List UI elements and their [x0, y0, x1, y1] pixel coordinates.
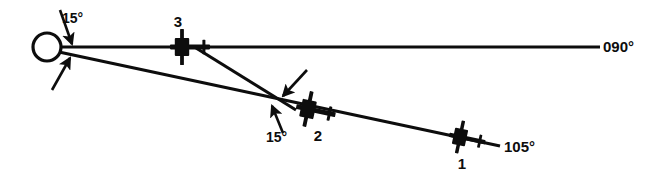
bearing-label-090: 090°: [603, 38, 634, 55]
aircraft-label-3: 3: [174, 13, 182, 30]
text-labels-group: 090° 105° 15° 15° 3 2 1: [62, 10, 634, 172]
bearing-label-105: 105°: [504, 138, 535, 155]
connector-line-3-to-2: [196, 48, 296, 110]
angle-label-aircraft-2: 15°: [266, 129, 287, 145]
angle-arrow-station-lower: [52, 58, 70, 90]
angle-arrow-aircraft2-upper: [283, 70, 307, 96]
radial-lines-group: [59, 47, 600, 146]
angle-label-station: 15°: [62, 10, 83, 26]
navigation-diagram-figure: 090° 105° 15° 15° 3 2 1: [0, 0, 663, 184]
aircraft-symbol-1: [446, 119, 489, 159]
aircraft-label-2: 2: [314, 127, 322, 144]
navigation-diagram-canvas: 090° 105° 15° 15° 3 2 1: [0, 0, 663, 184]
station-circle: [33, 33, 61, 61]
aircraft-label-1: 1: [458, 155, 466, 172]
aircraft-symbol-3: [170, 29, 210, 65]
